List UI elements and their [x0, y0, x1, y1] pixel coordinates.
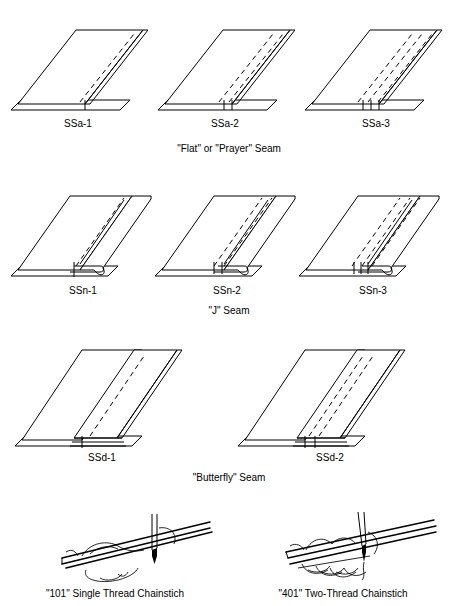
figure-stitch-101 — [60, 512, 240, 584]
figure-ssn-2 — [152, 180, 302, 290]
figure-ssa-1 — [8, 12, 148, 124]
diagram-sheet: SSa-1 SSa-2 SSa-3 "Flat" or "Prayer" Sea… — [0, 0, 458, 606]
figure-label-ssn-1: SSn-1 — [8, 285, 158, 297]
figure-label-ssn-3: SSn-3 — [296, 285, 450, 297]
seam-caption-butterfly: "Butterfly" Seam — [0, 472, 458, 484]
stitch-caption-401: "401" Two-Thread Chainstich — [228, 588, 458, 600]
figure-ssa-3 — [302, 12, 450, 124]
figure-ssa-2 — [155, 12, 295, 124]
figure-label-ssn-2: SSn-2 — [152, 285, 302, 297]
figure-label-ssd-1: SSd-1 — [12, 452, 192, 464]
figure-stitch-401 — [258, 512, 438, 584]
figure-ssn-3 — [296, 180, 450, 290]
stitch-caption-101: "101" Single Thread Chainstich — [0, 588, 230, 600]
figure-ssd-2 — [235, 338, 425, 456]
figure-label-ssa-3: SSa-3 — [302, 118, 450, 130]
figure-label-ssa-2: SSa-2 — [155, 118, 295, 130]
seam-caption-flat-prayer: "Flat" or "Prayer" Seam — [0, 143, 458, 155]
figure-label-ssa-1: SSa-1 — [8, 118, 148, 130]
figure-ssn-1 — [8, 180, 158, 290]
figure-label-ssd-2: SSd-2 — [235, 452, 425, 464]
seam-caption-j-seam: "J" Seam — [0, 305, 458, 317]
figure-ssd-1 — [12, 338, 192, 456]
